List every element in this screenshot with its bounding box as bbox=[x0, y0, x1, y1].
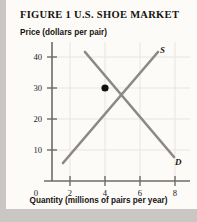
gridlines-vertical bbox=[70, 42, 175, 181]
supply-curve-label: S bbox=[160, 45, 165, 55]
y-tick-label-30: 30 bbox=[33, 83, 42, 93]
demand-curve-label: D bbox=[174, 157, 182, 167]
supply-curve bbox=[63, 52, 158, 163]
x-axis-title: Quantity (millions of pairs per year) bbox=[0, 196, 197, 205]
y-tick-label-20: 20 bbox=[33, 114, 42, 124]
demand-curve bbox=[85, 52, 174, 157]
equilibrium-point bbox=[101, 84, 108, 91]
y-tick-label-40: 40 bbox=[33, 52, 42, 62]
gridlines-horizontal bbox=[52, 57, 190, 150]
chart-plot: 40 30 20 10 0 2 4 6 8 S D bbox=[0, 0, 197, 222]
y-tick-label-10: 10 bbox=[33, 145, 42, 155]
figure-container: FIGURE 1 U.S. SHOE MARKET Price (dollars… bbox=[0, 0, 197, 222]
